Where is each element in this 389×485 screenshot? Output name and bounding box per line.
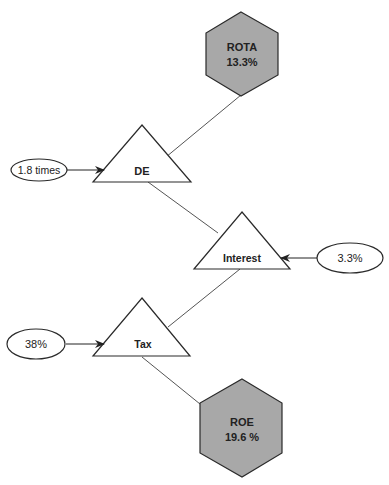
interest-label: Interest: [223, 252, 261, 264]
roe-value: 19.6 %: [225, 431, 259, 443]
roe-hexagon: ROE 19.6 %: [200, 379, 282, 477]
rota-hexagon: ROTA 13.3%: [206, 12, 278, 96]
tax-input-ellipse: 38%: [7, 329, 65, 359]
de-triangle: DE: [93, 125, 191, 182]
connector-tax-roe: [142, 357, 200, 404]
rota-value: 13.3%: [226, 56, 257, 68]
de-label: DE: [134, 165, 149, 177]
de-input-ellipse: 1.8 times: [11, 159, 67, 181]
interest-input-label: 3.3%: [337, 252, 362, 264]
financial-ratio-diagram: ROTA 13.3% DE 1.8 times Interest 3.3% Ta…: [0, 0, 389, 485]
de-input-label: 1.8 times: [18, 164, 61, 176]
interest-input-ellipse: 3.3%: [317, 243, 383, 273]
roe-title: ROE: [230, 416, 254, 428]
rota-title: ROTA: [227, 41, 257, 53]
interest-triangle: Interest: [194, 212, 290, 269]
connector-de-interest: [148, 182, 218, 233]
tax-triangle: Tax: [93, 298, 190, 356]
connector-interest-tax: [168, 269, 240, 327]
connector-rota-de: [166, 95, 241, 157]
tax-label: Tax: [134, 338, 151, 350]
tax-input-label: 38%: [25, 338, 47, 350]
